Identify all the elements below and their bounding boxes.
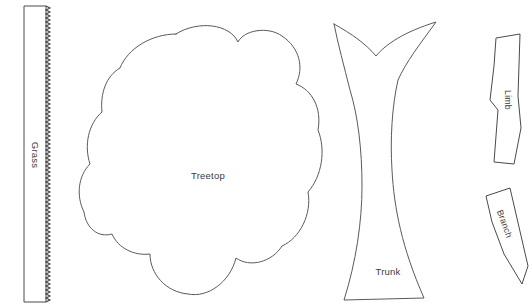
- piece-trunk: Trunk: [334, 22, 436, 300]
- trunk-label: Trunk: [376, 266, 401, 277]
- piece-treetop: Treetop: [79, 26, 322, 295]
- piece-limb: Limb: [490, 34, 521, 164]
- piece-branch: Branch: [486, 188, 528, 284]
- piece-grass: Grass: [24, 6, 50, 302]
- trunk-outline: [334, 22, 436, 300]
- limb-label: Limb: [503, 90, 513, 110]
- grass-label: Grass: [30, 142, 41, 168]
- treetop-outline: [79, 26, 322, 295]
- template-canvas: Grass Treetop Trunk Limb Branch: [0, 0, 532, 308]
- grass-sawtooth-edge-icon: [46, 6, 50, 302]
- template-sheet: Grass Treetop Trunk Limb Branch: [0, 0, 532, 308]
- treetop-label: Treetop: [191, 170, 225, 181]
